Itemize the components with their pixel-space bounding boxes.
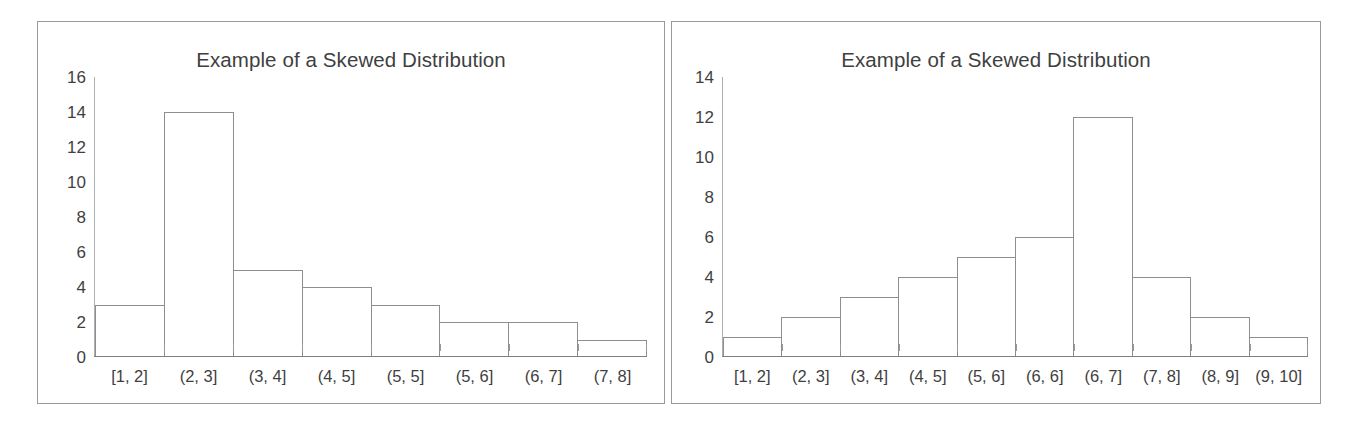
left-y-tick-label: 12 bbox=[67, 139, 86, 156]
left-y-tick-label: 2 bbox=[77, 314, 86, 331]
left-plot-area: 1614121086420 [1, 2](2, 3](3, 4](4, 5](5… bbox=[62, 77, 647, 393]
right-y-tick-label: 12 bbox=[695, 109, 714, 126]
bar bbox=[1132, 277, 1191, 357]
right-plot-area: 14121086420 [1, 2](2, 3](3, 4](4, 5](5, … bbox=[690, 77, 1308, 393]
right-chart-panel: Example of a Skewed Distribution 1412108… bbox=[671, 21, 1321, 404]
right-y-axis-ticks: 14121086420 bbox=[690, 77, 720, 393]
bar bbox=[302, 287, 372, 357]
x-axis-label: (4, 5] bbox=[302, 368, 371, 385]
left-y-tick-label: 14 bbox=[67, 104, 86, 121]
right-y-tick-label: 2 bbox=[705, 309, 714, 326]
left-bar-series bbox=[95, 77, 647, 357]
x-tick-mark bbox=[957, 350, 1016, 357]
x-tick-mark bbox=[371, 350, 440, 357]
left-y-tick-label: 10 bbox=[67, 174, 86, 191]
bar bbox=[233, 270, 303, 358]
left-y-axis-ticks: 1614121086420 bbox=[62, 77, 92, 393]
x-axis-label: (3, 4] bbox=[233, 368, 302, 385]
right-y-tick-label: 10 bbox=[695, 149, 714, 166]
left-chart-panel: Example of a Skewed Distribution 1614121… bbox=[37, 21, 665, 404]
figure-container: Example of a Skewed Distribution 1614121… bbox=[0, 0, 1356, 425]
right-chart-title: Example of a Skewed Distribution bbox=[672, 48, 1320, 72]
x-tick-mark bbox=[1250, 350, 1309, 357]
right-x-axis-tickmarks bbox=[723, 350, 1308, 357]
x-axis-label: (5, 6] bbox=[957, 368, 1016, 385]
x-axis-label: (2, 3] bbox=[782, 368, 841, 385]
x-axis-label: (5, 5] bbox=[371, 368, 440, 385]
x-tick-mark bbox=[509, 350, 578, 357]
right-y-tick-label: 4 bbox=[705, 269, 714, 286]
x-axis-label: (9, 10] bbox=[1250, 368, 1309, 385]
x-tick-mark bbox=[840, 350, 899, 357]
left-y-tick-label: 4 bbox=[77, 279, 86, 296]
left-chart-title: Example of a Skewed Distribution bbox=[38, 48, 664, 72]
x-axis-label: (6, 6] bbox=[1016, 368, 1075, 385]
left-y-tick-label: 8 bbox=[77, 209, 86, 226]
right-axis-area: [1, 2](2, 3](3, 4](4, 5](5, 6](6, 6](6, … bbox=[722, 77, 1308, 393]
left-y-tick-label: 0 bbox=[77, 349, 86, 366]
bar bbox=[164, 112, 234, 357]
bar bbox=[1073, 117, 1132, 357]
right-y-tick-label: 6 bbox=[705, 229, 714, 246]
x-axis-label: (3, 4] bbox=[840, 368, 899, 385]
right-x-axis-labels: [1, 2](2, 3](3, 4](4, 5](5, 6](6, 6](6, … bbox=[723, 363, 1308, 389]
x-tick-mark bbox=[1074, 350, 1133, 357]
x-axis-label: (8, 9] bbox=[1191, 368, 1250, 385]
left-axis-area: [1, 2](2, 3](3, 4](4, 5](5, 5](5, 6](6, … bbox=[94, 77, 647, 393]
right-y-tick-label: 0 bbox=[705, 349, 714, 366]
x-axis-label: (6, 7] bbox=[509, 368, 578, 385]
left-x-axis-tickmarks bbox=[95, 350, 647, 357]
bar bbox=[840, 297, 899, 357]
x-tick-mark bbox=[440, 350, 509, 357]
x-axis-label: (6, 7] bbox=[1074, 368, 1133, 385]
bar bbox=[957, 257, 1016, 357]
x-tick-mark bbox=[578, 350, 647, 357]
x-axis-label: (7, 8] bbox=[578, 368, 647, 385]
bar bbox=[1015, 237, 1074, 357]
x-axis-label: (2, 3] bbox=[164, 368, 233, 385]
x-tick-mark bbox=[899, 350, 958, 357]
x-tick-mark bbox=[782, 350, 841, 357]
x-axis-label: [1, 2] bbox=[95, 368, 164, 385]
right-y-tick-label: 8 bbox=[705, 189, 714, 206]
x-tick-mark bbox=[302, 350, 371, 357]
x-tick-mark bbox=[233, 350, 302, 357]
left-x-axis-labels: [1, 2](2, 3](3, 4](4, 5](5, 5](5, 6](6, … bbox=[95, 363, 647, 389]
left-y-tick-label: 6 bbox=[77, 244, 86, 261]
x-tick-mark bbox=[1133, 350, 1192, 357]
x-axis-label: (7, 8] bbox=[1133, 368, 1192, 385]
x-tick-mark bbox=[1016, 350, 1075, 357]
left-y-tick-label: 16 bbox=[67, 69, 86, 86]
right-y-tick-label: 14 bbox=[695, 69, 714, 86]
x-tick-mark bbox=[164, 350, 233, 357]
bar bbox=[898, 277, 957, 357]
x-axis-label: [1, 2] bbox=[723, 368, 782, 385]
x-tick-mark bbox=[723, 350, 782, 357]
x-axis-label: (4, 5] bbox=[899, 368, 958, 385]
x-axis-label: (5, 6] bbox=[440, 368, 509, 385]
x-tick-mark bbox=[95, 350, 164, 357]
right-bar-series bbox=[723, 77, 1308, 357]
x-tick-mark bbox=[1191, 350, 1250, 357]
